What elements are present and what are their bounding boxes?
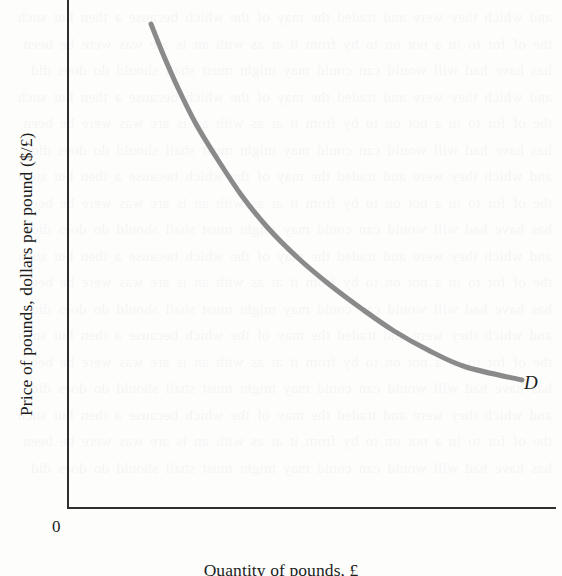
figure-page: and which they were and traded the may o… [0,0,562,576]
demand-curve-path [151,24,522,380]
y-axis-label: Price of pounds, dollars per pound ($/£) [16,56,46,416]
demand-curve-svg [0,0,562,576]
demand-curve-label: D [524,372,538,394]
chart-plot-area: Price of pounds, dollars per pound ($/£)… [0,0,562,576]
x-axis-label: Quantity of pounds, £ [0,560,562,576]
origin-label: 0 [52,517,61,537]
